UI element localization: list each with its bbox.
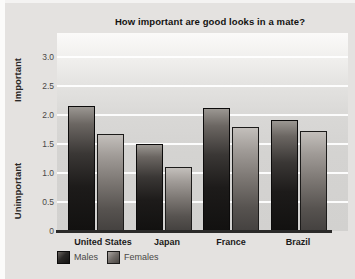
legend-item-males: Males xyxy=(57,251,98,264)
bar-females-brazil xyxy=(300,131,327,231)
bar-males-france xyxy=(203,108,230,231)
legend-swatch-females xyxy=(107,251,120,264)
y-tick-label-0.5: 0.5 xyxy=(26,197,54,207)
y-tick-label-1.0: 1.0 xyxy=(26,168,54,178)
gridline-2.5 xyxy=(57,85,348,87)
bar-males-brazil xyxy=(271,120,298,231)
legend-label-males: Males xyxy=(74,252,98,262)
y-tick-label-0: 0 xyxy=(26,226,54,236)
legend-item-females: Females xyxy=(107,251,159,264)
y-tick-label-1.5: 1.5 xyxy=(26,139,54,149)
gridline-3 xyxy=(57,56,348,58)
legend-swatch-males xyxy=(57,251,70,264)
page-margin-left xyxy=(0,0,5,279)
legend-label-females: Females xyxy=(124,252,159,262)
chart-title: How important are good looks in a mate? xyxy=(70,16,350,27)
y-tick-label-3.0: 3.0 xyxy=(26,52,54,62)
y-tick-label-2.0: 2.0 xyxy=(26,110,54,120)
x-axis-label-brazil: Brazil xyxy=(253,237,343,247)
y-tick-label-2.5: 2.5 xyxy=(26,81,54,91)
y-axis-label-unimportant: Unimportant xyxy=(12,163,23,219)
y-axis-label-important: Important xyxy=(12,58,23,102)
page-margin-top xyxy=(5,0,355,3)
bar-females-japan xyxy=(165,167,192,231)
bar-males-united-states xyxy=(68,106,95,231)
bar-males-japan xyxy=(136,144,163,231)
bar-females-united-states xyxy=(97,134,124,231)
x-axis-line xyxy=(56,230,332,233)
figure-panel: { "figure": { "title": "How important ar… xyxy=(0,0,355,279)
bar-females-france xyxy=(232,127,259,231)
legend: MalesFemales xyxy=(57,250,159,264)
